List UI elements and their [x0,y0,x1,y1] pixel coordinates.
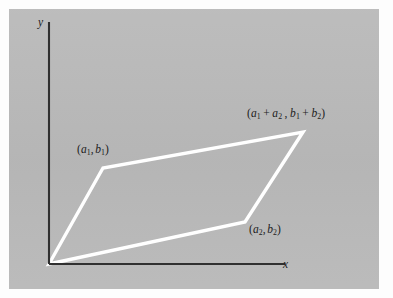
paren-close: ) [105,143,109,155]
y-axis-label: y [38,17,43,29]
vertex-label-v1: (a1,b1) [77,144,109,157]
x-axis-label: x [283,259,288,271]
page-background: y x (a1,b1) (a2,b2) (a1+a2,b1+b2) [0,0,393,298]
diagram-canvas [0,0,393,298]
plus-operator-b: + [300,107,312,119]
vertex-label-sum: (a1+a2,b1+b2) [247,108,325,121]
comma: , [282,107,290,119]
paren-close: ) [277,223,281,235]
paren-close: ) [321,107,325,119]
vertex-label-v2: (a2,b2) [249,224,281,237]
plus-operator-a: + [261,107,273,119]
